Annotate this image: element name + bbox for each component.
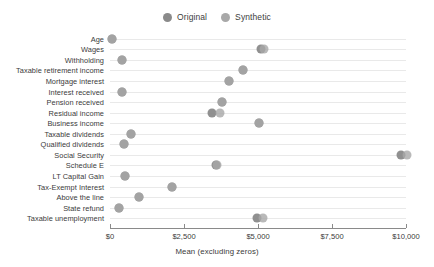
grid-line: [110, 208, 406, 209]
y-axis-label: Taxable unemployment: [27, 214, 104, 223]
grid-line: [110, 134, 406, 135]
grid-line: [110, 81, 406, 82]
data-point: [126, 129, 135, 138]
x-axis-tick-label: $0: [106, 232, 114, 241]
data-point: [218, 98, 227, 107]
grid-line: [110, 60, 406, 61]
legend-label-synthetic: Synthetic: [235, 12, 271, 22]
data-point: [117, 87, 126, 96]
y-axis-label: Tax-Exempt Interest: [37, 182, 104, 191]
y-axis-label: Residual income: [49, 108, 104, 117]
y-axis-label: Taxable retirement income: [16, 66, 104, 75]
y-axis-label: Above the line: [56, 193, 104, 202]
legend-entry-original: Original: [163, 12, 207, 22]
x-axis-tick: [258, 224, 259, 228]
data-point: [135, 193, 144, 202]
grid-line: [110, 144, 406, 145]
y-axis-label: Schedule E: [66, 161, 104, 170]
y-axis-label: Mortgage interest: [46, 77, 104, 86]
data-point: [216, 108, 225, 117]
data-point: [238, 66, 247, 75]
y-axis-label: Wages: [81, 45, 104, 54]
x-axis-tick-label: $2,500: [172, 232, 195, 241]
y-axis-label: Pension received: [47, 98, 105, 107]
x-axis-tick: [332, 224, 333, 228]
y-axis-category-labels: AgeWagesWithholdingTaxable retirement in…: [0, 34, 104, 224]
scatter-chart-figure: Original Synthetic AgeWagesWithholdingTa…: [0, 0, 434, 267]
grid-line: [110, 197, 406, 198]
grid-line: [110, 113, 406, 114]
x-axis-tick-label: $7,500: [320, 232, 343, 241]
grid-line: [110, 70, 406, 71]
y-axis-label: Qualified dividends: [41, 140, 104, 149]
y-axis-label: Business income: [47, 119, 104, 128]
chart-legend: Original Synthetic: [0, 12, 434, 22]
y-axis-label: State refund: [63, 203, 104, 212]
data-point: [225, 77, 234, 86]
plot-area: [110, 34, 406, 224]
y-axis-label: Social Security: [54, 150, 104, 159]
y-axis-label: Interest received: [49, 87, 105, 96]
x-axis-tick-label: $5,000: [246, 232, 269, 241]
data-point: [168, 182, 177, 191]
grid-line: [110, 176, 406, 177]
legend-label-original: Original: [177, 12, 207, 22]
x-axis-line: [110, 228, 406, 229]
grid-line: [110, 187, 406, 188]
data-point: [119, 140, 128, 149]
x-axis-tick-label: $10,000: [392, 232, 419, 241]
data-point: [118, 55, 127, 64]
data-point: [115, 203, 124, 212]
x-axis-tick: [184, 224, 185, 228]
grid-line: [110, 165, 406, 166]
data-point: [259, 214, 268, 223]
grid-line: [110, 155, 406, 156]
x-axis-tick: [406, 224, 407, 228]
grid-line: [110, 39, 406, 40]
grid-line: [110, 102, 406, 103]
y-axis-label: Taxable dividends: [44, 129, 104, 138]
data-point: [259, 45, 268, 54]
x-axis-tick: [110, 224, 111, 228]
legend-swatch-synthetic: [221, 13, 230, 22]
grid-line: [110, 92, 406, 93]
legend-swatch-original: [163, 13, 172, 22]
data-point: [108, 34, 117, 43]
y-axis-label: Withholding: [65, 55, 104, 64]
data-point: [121, 172, 130, 181]
legend-entry-synthetic: Synthetic: [221, 12, 271, 22]
data-point: [402, 150, 411, 159]
y-axis-label: LT Capital Gain: [53, 172, 104, 181]
y-axis-label: Age: [91, 34, 104, 43]
data-point: [254, 119, 263, 128]
data-point: [213, 161, 222, 170]
x-axis-title: Mean (excluding zeros): [0, 247, 434, 256]
